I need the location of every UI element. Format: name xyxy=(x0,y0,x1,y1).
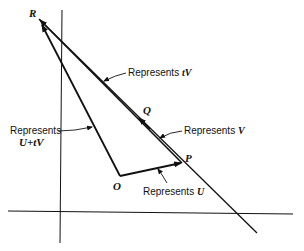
point-p-label: P xyxy=(185,152,192,164)
x-axis xyxy=(8,211,293,214)
point-r-label: R xyxy=(28,7,36,19)
leader-v xyxy=(160,131,182,138)
point-q-label: Q xyxy=(143,104,151,116)
label-represents-u-plus-tv: Represents xyxy=(10,125,61,136)
leader-u-plus-tv xyxy=(58,127,92,131)
vector-u-arrow xyxy=(120,163,181,176)
vector-u-plus-tv-arrow xyxy=(42,25,120,176)
label-u-plus-tv-symbol: U+tV xyxy=(19,136,45,148)
label-represents-tv: Represents tV xyxy=(128,67,193,78)
point-o-label: O xyxy=(113,180,121,192)
vector-diagram: R Q P O Represents tV Represents V Repre… xyxy=(0,0,304,251)
label-represents-u: Represents U xyxy=(143,186,205,197)
leader-tv xyxy=(104,73,126,81)
leader-u xyxy=(158,169,167,183)
label-represents-v: Represents V xyxy=(184,125,246,136)
vector-v-arrow xyxy=(139,118,150,129)
